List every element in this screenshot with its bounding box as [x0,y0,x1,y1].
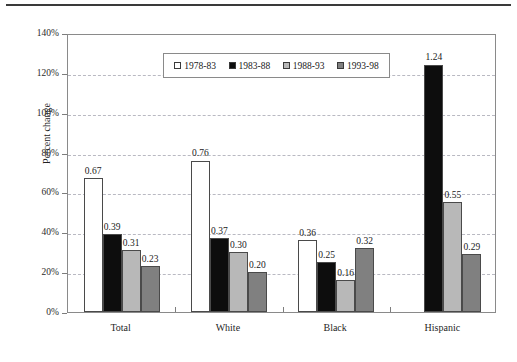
bar[interactable] [317,262,336,312]
x-tick-mark [390,307,391,312]
legend-item[interactable]: 1978-83 [174,61,216,71]
bar[interactable] [84,178,103,312]
bar[interactable] [103,234,122,312]
bar[interactable] [336,280,355,312]
bar-value-label: 0.37 [211,227,228,237]
y-tick-mark [62,233,67,234]
y-tick-mark [62,74,67,75]
bar-value-label: 0.20 [249,261,266,271]
y-tick-label: 20% [42,267,59,277]
chart-legend: 1978-831983-881988-931993-98 [163,53,390,78]
x-tick-mark [175,307,176,312]
bar[interactable] [424,65,443,312]
bar[interactable] [122,250,141,312]
bar-value-label: 0.23 [142,255,159,265]
legend-label: 1988-93 [293,61,325,71]
chart-figure: Percent change 0.670.390.310.230.760.370… [0,0,517,362]
bar[interactable] [210,238,229,312]
legend-label: 1993-98 [347,61,379,71]
y-tick-label: 140% [37,28,59,38]
y-tick-mark [62,313,67,314]
bar-value-label: 0.55 [445,191,462,201]
bar[interactable] [141,266,160,312]
bar-value-label: 0.32 [356,237,373,247]
bar-value-label: 0.36 [299,229,316,239]
legend-item[interactable]: 1983-88 [229,61,271,71]
y-axis-title: Percent change [41,74,52,194]
bar[interactable] [229,252,248,312]
legend-item[interactable]: 1988-93 [283,61,325,71]
page-top-rule [6,4,511,6]
bar-value-label: 0.25 [318,251,335,261]
bar-group: 1.240.550.29 [390,35,497,312]
y-tick-label: 100% [37,108,59,118]
legend-swatch-icon [337,62,344,69]
y-tick-label: 120% [37,68,59,78]
x-axis-label-black: Black [323,322,346,333]
y-tick-mark [62,193,67,194]
y-tick-label: 60% [42,187,59,197]
legend-label: 1978-83 [184,61,216,71]
legend-item[interactable]: 1993-98 [337,61,379,71]
bar-value-label: 0.29 [464,243,481,253]
y-tick-label: 40% [42,227,59,237]
y-tick-mark [62,154,67,155]
x-axis-label-hispanic: Hispanic [425,322,461,333]
bar[interactable] [443,202,462,312]
bar[interactable] [462,254,481,312]
bar-group: 0.670.390.310.23 [68,35,175,312]
y-tick-mark [62,34,67,35]
legend-swatch-icon [283,62,290,69]
bar[interactable] [355,248,374,312]
legend-swatch-icon [174,62,181,69]
bar[interactable] [191,161,210,312]
y-tick-label: 80% [42,148,59,158]
bar-value-label: 0.30 [230,241,247,251]
x-axis-label-total: Total [110,322,130,333]
bar-value-label: 0.16 [337,269,354,279]
legend-swatch-icon [229,62,236,69]
y-tick-mark [62,114,67,115]
bar-value-label: 0.67 [85,167,102,177]
x-tick-mark [283,307,284,312]
y-tick-label: 0% [46,307,59,317]
bar-value-label: 0.31 [123,239,140,249]
bar[interactable] [248,272,267,312]
y-tick-mark [62,273,67,274]
x-axis-label-white: White [216,322,240,333]
bar[interactable] [298,240,317,312]
bar-value-label: 1.24 [426,53,443,63]
bar-value-label: 0.39 [104,223,121,233]
legend-label: 1983-88 [239,61,271,71]
bar-value-label: 0.76 [192,149,209,159]
